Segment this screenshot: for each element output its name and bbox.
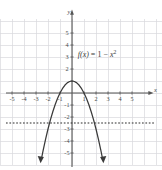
y-tick-label: -3 <box>64 125 69 132</box>
x-tick-label: 3 <box>106 95 109 102</box>
x-tick-label: -5 <box>9 95 14 102</box>
y-tick-label: 4 <box>65 41 68 48</box>
function-equation-label: f(x) = 1 − x2 <box>78 49 117 59</box>
y-axis-name: y <box>67 8 71 15</box>
x-tick-label: -4 <box>21 95 26 102</box>
y-tick-label: 2 <box>65 65 68 72</box>
y-tick-label: 5 <box>65 29 68 36</box>
y-axis-arrowhead <box>70 10 74 15</box>
equation-equals: = <box>89 50 98 59</box>
x-axis-name: x <box>153 86 157 93</box>
graph-canvas: y x -5 -4 -3 -2 -1 1 2 3 4 5 <box>0 0 162 170</box>
y-tick-label: 3 <box>65 53 68 60</box>
equation-constant: 1 − <box>97 50 110 59</box>
x-tick-label: 4 <box>118 95 121 102</box>
equation-exponent: 2 <box>113 49 116 55</box>
curve-arrowhead-left <box>38 156 44 163</box>
y-tick-label: -5 <box>64 149 69 156</box>
parabola-graph-figure: y x -5 -4 -3 -2 -1 1 2 3 4 5 <box>0 0 162 170</box>
x-axis-arrowhead <box>148 91 153 95</box>
axes <box>6 13 150 167</box>
y-tick-label: -4 <box>64 137 69 144</box>
x-tick-label: 2 <box>94 95 97 102</box>
x-tick-label: -3 <box>33 95 38 102</box>
curve-arrowhead-right <box>100 156 106 163</box>
y-tick-label: -1 <box>64 101 69 108</box>
y-tick-label: -2 <box>64 113 69 120</box>
x-tick-label: -2 <box>45 95 50 102</box>
x-tick-label: 5 <box>130 95 133 102</box>
equation-fx: f(x) <box>78 50 89 59</box>
